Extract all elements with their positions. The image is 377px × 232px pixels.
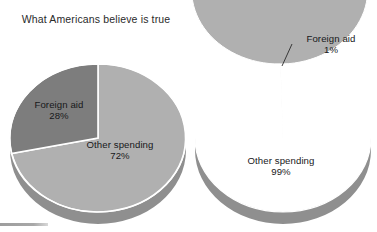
slice-label-other-spending-right-value: 99% xyxy=(229,166,333,177)
slice-label-foreign-aid-right: Foreign aid 1% xyxy=(289,33,373,56)
slice-label-foreign-aid-left: Foreign aid 28% xyxy=(18,99,100,122)
slice-label-other-spending-left: Other spending 72% xyxy=(70,139,170,162)
slice-label-other-spending-left-name: Other spending xyxy=(86,139,153,150)
chart-panel-left: What Americans believe is true Foreign a… xyxy=(0,0,188,232)
slice-label-other-spending-right-name: Other spending xyxy=(247,155,314,166)
slice-label-other-spending-right: Other spending 99% xyxy=(229,155,333,178)
bottom-rule xyxy=(0,223,48,226)
pie-depth-right xyxy=(195,138,371,224)
slice-label-foreign-aid-left-value: 28% xyxy=(18,110,100,121)
slice-label-foreign-aid-left-name: Foreign aid xyxy=(34,99,83,110)
slice-label-foreign-aid-right-name: Foreign aid xyxy=(306,33,355,44)
pie-slice-other-spending-right xyxy=(192,0,368,138)
pie-slice-foreign-aid-right xyxy=(281,64,284,138)
slice-label-other-spending-left-value: 72% xyxy=(70,150,170,161)
figure-canvas: What Americans believe is true Foreign a… xyxy=(0,0,377,232)
chart-panel-right: What's actually true Foreign aid 1% Othe… xyxy=(189,0,377,232)
slice-label-foreign-aid-right-value: 1% xyxy=(289,44,373,55)
